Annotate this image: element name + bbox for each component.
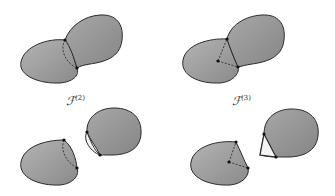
label-f3-base: ℱ — [232, 94, 241, 108]
vertex-dot — [234, 140, 237, 143]
surface-pair-cut-two — [21, 108, 141, 185]
vertex-dot — [216, 59, 219, 62]
figure-canvas — [0, 0, 335, 196]
right-blob — [87, 108, 141, 155]
vertex-dot — [75, 166, 78, 169]
right-blob — [227, 15, 284, 67]
vertex-dot — [98, 153, 101, 156]
vertex-dot — [75, 66, 78, 69]
left-blob — [21, 140, 78, 185]
vertex-dot — [63, 38, 66, 41]
left-blob — [191, 142, 249, 185]
vertex-dot — [246, 166, 249, 169]
label-f3: ℱ(3) — [232, 94, 251, 108]
vertex-dot — [236, 65, 239, 68]
vertex-dot — [227, 160, 230, 163]
vertex-dot — [62, 138, 65, 141]
surface-pair-glued-three — [183, 15, 285, 83]
label-f3-sup: (3) — [241, 94, 251, 102]
vertex-dot — [225, 37, 228, 40]
label-f2-base: ℱ — [66, 94, 75, 108]
label-f2-sup: (2) — [75, 94, 85, 102]
vertex-dot — [274, 155, 277, 158]
surface-pair-glued-two — [21, 15, 123, 83]
vertex-dot — [85, 130, 88, 133]
surface-pair-cut-three — [191, 109, 319, 185]
vertex-dot — [262, 132, 265, 135]
label-f2: ℱ(2) — [66, 94, 85, 108]
